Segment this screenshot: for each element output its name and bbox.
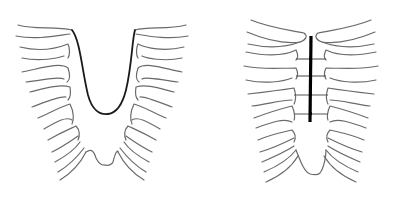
xiphoid-notch — [86, 150, 118, 165]
right-ribs — [118, 25, 188, 180]
left-ribs — [16, 25, 86, 180]
figure-sternal-defect: Sternal cleft / defect (before repair) — [0, 0, 200, 200]
defect-edge — [72, 30, 135, 114]
sternal-bar — [310, 36, 311, 122]
xiphoid-notch — [296, 150, 326, 175]
ribcage-repair-drawing — [200, 0, 394, 200]
figure-sternal-repair: After repair with sternal bar and suture… — [200, 0, 394, 200]
left-ribs — [244, 20, 306, 182]
ribcage-defect-drawing — [0, 0, 200, 200]
